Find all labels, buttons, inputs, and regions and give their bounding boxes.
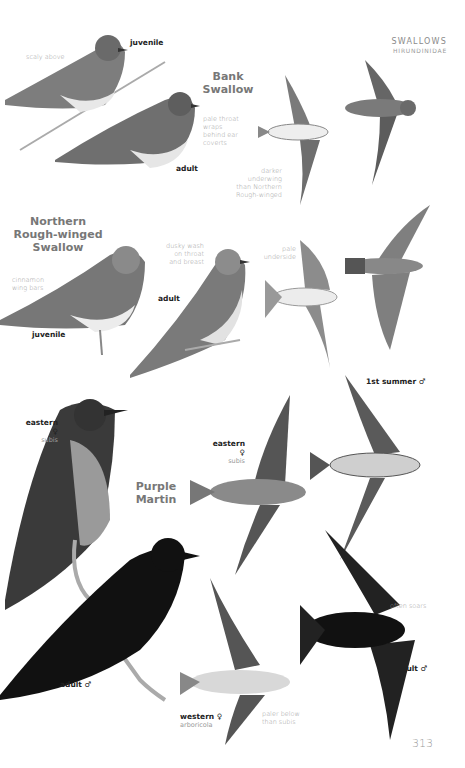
first-summer-male-label: 1st summer ♂ xyxy=(366,377,425,386)
bank-adult-label: adult xyxy=(176,164,198,173)
note-dusky-wash: dusky washon throatand breast xyxy=(148,242,204,266)
western-female-label: western ♀ arboricola xyxy=(180,712,222,730)
adult-male-perched-label: adult ♂ xyxy=(60,680,91,689)
note-scaly-above: scaly above xyxy=(26,53,65,61)
rough-winged-juvenile-illustration xyxy=(0,246,145,355)
species-title-bank-swallow: Bank Swallow xyxy=(198,70,258,96)
note-cinnamon-wing-bars: cinnamonwing bars xyxy=(12,276,44,292)
species-title-purple-martin: Purple Martin xyxy=(132,480,180,506)
rough-winged-juvenile-label: juvenile xyxy=(32,330,65,339)
page-number: 313 xyxy=(412,737,433,750)
eastern-female-flight-label: eastern ♀ subis xyxy=(205,439,245,466)
rough-winged-flight-upper-illustration xyxy=(345,205,430,350)
family-name: SWALLOWS xyxy=(391,37,447,46)
note-pale-underside: paleunderside xyxy=(260,245,296,261)
note-paler-below: paler belowthan subis xyxy=(262,710,300,726)
family-scientific-name: HIRUNDINIDAE xyxy=(393,47,447,54)
note-pale-throat: pale throatwrapsbehind earcoverts xyxy=(203,115,239,147)
bank-juvenile-label: juvenile xyxy=(130,38,163,47)
rough-winged-adult-label: adult xyxy=(158,294,180,303)
purple-martin-adult-male-flight-illustration xyxy=(300,530,415,740)
eastern-female-perched-label: eastern ♀ subis xyxy=(22,418,58,445)
note-darker-underwing: darkerunderwingthan NorthernRough-winged xyxy=(230,167,282,199)
adult-male-flight-label: adult ♂ xyxy=(396,664,427,673)
note-often-soars: often soars xyxy=(390,602,426,610)
bank-swallow-flight-upper-illustration xyxy=(345,60,416,185)
species-title-rough-winged: Northern Rough-winged Swallow xyxy=(8,215,108,254)
purple-martin-eastern-female-flight-illustration xyxy=(190,395,306,575)
rough-winged-adult-illustration xyxy=(130,249,250,378)
